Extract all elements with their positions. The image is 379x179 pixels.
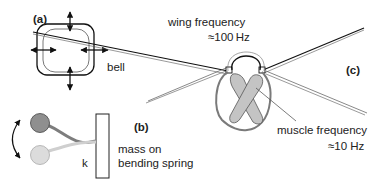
bell-label: bell <box>107 61 125 74</box>
muscle-frequency-label: muscle frequency <box>277 124 367 137</box>
left-wing-upper-2 <box>33 34 227 74</box>
wing-frequency-label: wing frequency <box>168 16 245 29</box>
panel-b-label: (b) <box>134 121 149 134</box>
spring-mass-diagram <box>13 114 110 179</box>
left-wing-upper <box>33 32 228 71</box>
thorax-top <box>232 56 261 70</box>
spring-constant-label: k <box>82 157 88 170</box>
mass-dark <box>31 114 50 133</box>
wing-frequency-value: ≈100 Hz <box>208 31 250 44</box>
left-wing-lower-2 <box>146 71 226 103</box>
oscillation-arrow-icon <box>13 120 21 158</box>
right-wing-lower <box>266 71 367 113</box>
spring-wall <box>96 114 109 178</box>
mass-caption-line1: mass on <box>118 143 161 156</box>
mass-caption-line2: bending spring <box>118 157 193 170</box>
panel-a-label: (a) <box>33 13 47 26</box>
left-wing-lower <box>148 68 226 101</box>
panel-c-label: (c) <box>346 64 360 77</box>
mass-light <box>31 146 50 165</box>
muscle-frequency-value: ≈10 Hz <box>328 140 364 153</box>
insect-flight-diagram <box>33 28 367 130</box>
